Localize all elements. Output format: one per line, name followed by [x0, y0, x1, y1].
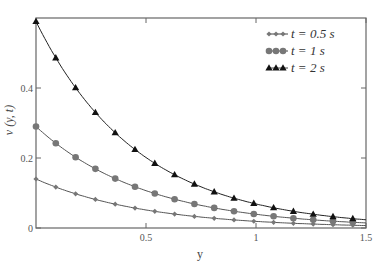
x-tick-label: 1.5	[360, 232, 373, 243]
y-tick-label: 0	[28, 223, 33, 234]
legend-item: t = 1 s	[291, 43, 325, 58]
x-tick-label: 0.5	[140, 232, 153, 243]
legend-item: t = 0.5 s	[291, 26, 334, 41]
x-tick-label: 1	[254, 232, 259, 243]
y-axis-label: v (y, t)	[2, 105, 16, 135]
y-tick-label: 0.4	[21, 83, 34, 94]
legend: t = 0.5 st = 1 st = 2 s	[265, 26, 334, 75]
chart: 0.511.500.20.4yv (y, t)t = 0.5 st = 1 st…	[0, 0, 386, 267]
series-circle	[33, 123, 366, 225]
legend-item: t = 2 s	[291, 60, 325, 75]
y-tick-label: 0.2	[21, 153, 34, 164]
x-axis-label: y	[197, 247, 203, 261]
